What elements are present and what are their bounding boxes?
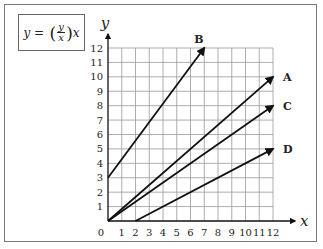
series-label-a: A bbox=[282, 71, 292, 84]
y-tick-label: 3 bbox=[97, 172, 103, 183]
x-tick-label: 10 bbox=[239, 227, 252, 238]
x-tick-label: 9 bbox=[229, 227, 235, 238]
y-tick-label: 8 bbox=[97, 100, 103, 111]
y-tick-label: 7 bbox=[97, 115, 103, 126]
y-tick-label: 10 bbox=[90, 71, 103, 82]
x-tick-label: 6 bbox=[187, 227, 193, 238]
x-tick-label: 0 bbox=[98, 227, 104, 238]
y-tick-label: 6 bbox=[97, 129, 103, 140]
y-tick-label: 5 bbox=[97, 143, 103, 154]
x-axis-label: x bbox=[300, 212, 309, 230]
y-tick-label: 12 bbox=[90, 43, 103, 54]
x-tick-label: 7 bbox=[201, 227, 207, 238]
line-chart: 0123456789101112123456789101112xyBACD bbox=[0, 0, 323, 249]
x-tick-label: 5 bbox=[174, 227, 180, 238]
line-b bbox=[108, 48, 204, 178]
y-tick-label: 9 bbox=[97, 86, 103, 97]
x-tick-label: 2 bbox=[132, 227, 138, 238]
series-label-b: B bbox=[194, 33, 203, 46]
y-tick-label: 2 bbox=[97, 187, 103, 198]
y-tick-label: 1 bbox=[97, 201, 103, 212]
series-label-d: D bbox=[283, 143, 293, 156]
x-tick-label: 12 bbox=[267, 227, 280, 238]
x-tick-label: 3 bbox=[146, 227, 152, 238]
x-tick-label: 8 bbox=[215, 227, 221, 238]
y-tick-label: 11 bbox=[90, 57, 103, 68]
series-label-c: C bbox=[283, 100, 292, 113]
y-axis-label: y bbox=[100, 14, 110, 32]
x-tick-label: 4 bbox=[160, 227, 166, 238]
x-tick-label: 11 bbox=[253, 227, 266, 238]
x-tick-label: 1 bbox=[119, 227, 125, 238]
y-tick-label: 4 bbox=[97, 158, 103, 169]
